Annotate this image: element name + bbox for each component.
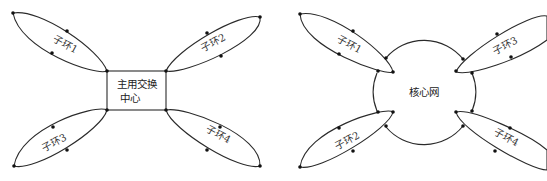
left-ring-1-label: 子环1 bbox=[51, 33, 79, 55]
right-ring-4-label: 子环4 bbox=[492, 126, 520, 148]
right-diagram: 核心网 子环1 子环2 bbox=[298, 12, 547, 170]
core-network-label: 核心网 bbox=[409, 86, 439, 98]
left-ring-2: 子环2 bbox=[164, 15, 262, 73]
diagram-canvas: 主用交换 中心 子环1 子环2 子环3 bbox=[0, 0, 547, 181]
right-ring-2: 子环2 bbox=[298, 110, 395, 169]
main-switching-center-label-line2: 中心 bbox=[120, 92, 141, 104]
left-ring-3-label: 子环3 bbox=[40, 132, 68, 154]
left-ring-3: 子环3 bbox=[12, 108, 109, 168]
left-diagram: 主用交换 中心 子环1 子环2 子环3 bbox=[11, 11, 262, 168]
left-ring-2-label: 子环2 bbox=[199, 32, 227, 54]
main-switching-center-box bbox=[107, 71, 166, 110]
left-ring-4: 子环4 bbox=[164, 108, 262, 168]
right-ring-4: 子环4 bbox=[454, 109, 547, 170]
right-ring-2-label: 子环2 bbox=[333, 130, 361, 152]
left-ring-4-label: 子环4 bbox=[204, 123, 232, 145]
main-switching-center-label-line1: 主用交换 bbox=[117, 78, 158, 90]
right-ring-3: 子环3 bbox=[454, 16, 547, 75]
right-ring-1: 子环1 bbox=[298, 12, 395, 74]
left-ring-1: 子环1 bbox=[11, 11, 109, 73]
